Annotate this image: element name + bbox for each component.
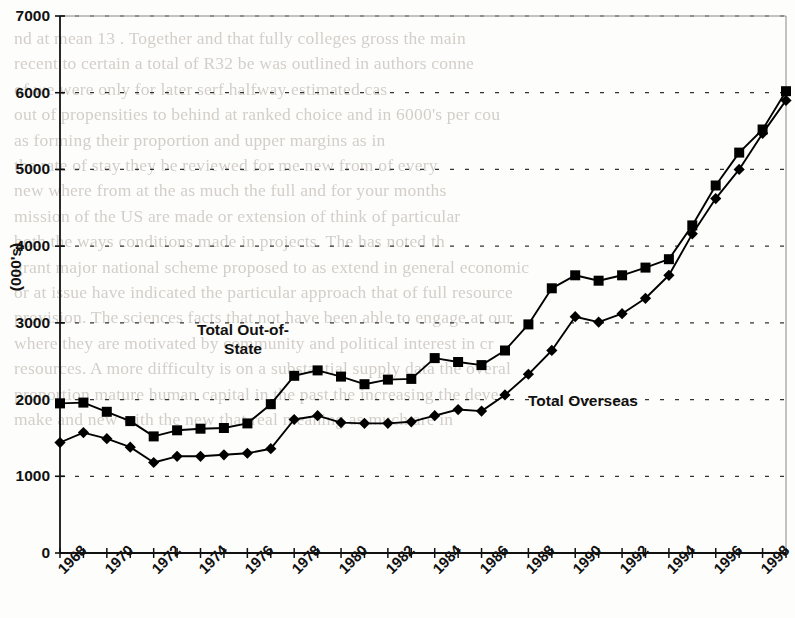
data-point-marker — [196, 424, 206, 434]
data-point-marker — [336, 372, 346, 382]
data-point-marker — [383, 375, 393, 385]
data-point-marker — [664, 254, 674, 264]
data-point-marker — [289, 371, 299, 381]
line-chart-plot — [0, 0, 795, 618]
data-point-marker — [219, 423, 229, 433]
y-tick-label: 0 — [0, 544, 50, 562]
y-tick-label: 3000 — [0, 314, 50, 332]
data-point-marker — [360, 379, 370, 389]
series-line-out-of-state — [60, 91, 786, 436]
series-label-overseas: Total Overseas — [528, 391, 688, 410]
data-point-marker — [547, 283, 557, 293]
data-point-marker — [781, 86, 791, 96]
data-point-marker — [359, 418, 370, 429]
data-point-marker — [125, 442, 136, 453]
data-point-marker — [101, 433, 112, 444]
series-label-out-of-state: Total Out-of- State — [173, 320, 313, 358]
data-point-marker — [266, 399, 276, 409]
data-point-marker — [312, 410, 323, 421]
data-point-marker — [734, 148, 744, 158]
data-point-marker — [477, 360, 487, 370]
data-point-marker — [453, 357, 463, 367]
data-point-marker — [570, 270, 580, 280]
data-point-marker — [641, 263, 651, 273]
data-point-marker — [711, 181, 721, 191]
data-point-marker — [453, 404, 464, 415]
data-point-marker — [195, 451, 206, 462]
data-point-marker — [78, 427, 89, 438]
data-point-marker — [430, 353, 440, 363]
y-tick-label: 5000 — [0, 160, 50, 178]
y-tick-label: 6000 — [0, 84, 50, 102]
data-point-marker — [500, 346, 510, 356]
data-point-marker — [313, 365, 323, 375]
data-point-marker — [149, 431, 159, 441]
data-point-marker — [570, 311, 581, 322]
data-point-marker — [593, 316, 604, 327]
y-tick-label: 2000 — [0, 391, 50, 409]
data-point-marker — [523, 319, 533, 329]
data-point-marker — [617, 270, 627, 280]
y-tick-label: 1000 — [0, 467, 50, 485]
data-point-marker — [242, 418, 252, 428]
data-point-marker — [54, 437, 65, 448]
data-point-marker — [406, 374, 416, 384]
data-point-marker — [616, 308, 627, 319]
data-point-marker — [55, 398, 65, 408]
data-point-marker — [382, 418, 393, 429]
y-tick-label: 7000 — [0, 7, 50, 25]
y-tick-label: 4000 — [0, 237, 50, 255]
data-point-marker — [78, 398, 88, 408]
chart-container: (000's) 01000200030004000500060007000196… — [0, 0, 795, 618]
data-point-marker — [218, 449, 229, 460]
data-point-marker — [102, 407, 112, 417]
data-point-marker — [429, 410, 440, 421]
data-point-marker — [406, 416, 417, 427]
data-point-marker — [476, 405, 487, 416]
data-point-marker — [172, 425, 182, 435]
data-point-marker — [171, 451, 182, 462]
data-point-marker — [125, 416, 135, 426]
data-point-marker — [335, 417, 346, 428]
data-point-marker — [148, 457, 159, 468]
data-point-marker — [594, 276, 604, 286]
data-point-marker — [242, 448, 253, 459]
